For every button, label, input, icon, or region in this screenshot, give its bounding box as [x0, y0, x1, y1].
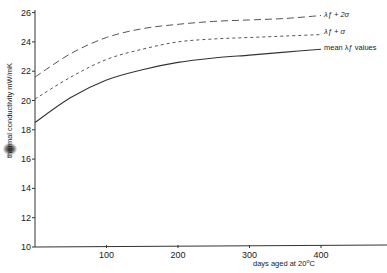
x-ticks: 100200300400 [99, 245, 329, 260]
legend-mean: mean λƒ values [324, 43, 377, 52]
y-ticks: 101214161820222426 [21, 8, 35, 252]
series-line-0 [35, 16, 321, 78]
y-tick-label: 12 [21, 213, 31, 223]
y-axis-label: thermal conductivity mW/mK [5, 63, 14, 158]
legend-2sigma: λƒ + 2σ [323, 10, 350, 19]
series-line-1 [35, 35, 321, 99]
line-chart: 101214161820222426 100200300400 thermal … [0, 0, 387, 273]
x-axis [35, 245, 387, 247]
y-tick-label: 18 [21, 125, 31, 135]
series-line-2 [35, 49, 321, 122]
x-tick-label: 100 [99, 250, 114, 260]
y-tick-label: 20 [21, 96, 31, 106]
y-tick-label: 16 [21, 154, 31, 164]
y-tick-label: 10 [21, 242, 31, 252]
legend-sigma: λƒ + σ [323, 27, 345, 36]
y-tick-label: 22 [21, 66, 31, 76]
x-tick-label: 200 [170, 250, 185, 260]
x-tick-label: 400 [313, 250, 328, 260]
y-tick-label: 26 [21, 8, 31, 18]
series-lines [35, 16, 321, 123]
y-tick-label: 24 [21, 37, 31, 47]
y-tick-label: 14 [21, 183, 31, 193]
x-axis-label: days aged at 20oC [253, 258, 315, 268]
